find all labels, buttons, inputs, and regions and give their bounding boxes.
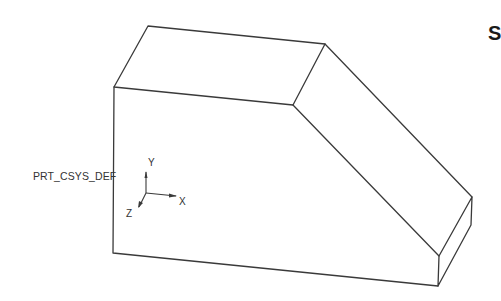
front-face-edge [113, 87, 438, 286]
csys-triad [138, 171, 177, 208]
csys-label: PRT_CSYS_DEF [33, 170, 116, 182]
x-axis-label: X [179, 196, 186, 207]
slope-edge-back [325, 44, 472, 197]
end-face-edge [438, 197, 472, 286]
top-face [114, 26, 325, 105]
cropped-heading-letter: S [488, 22, 501, 45]
slope-edge-front [293, 105, 439, 256]
y-axis-label: Y [148, 157, 155, 168]
z-axis-label: Z [126, 208, 132, 219]
